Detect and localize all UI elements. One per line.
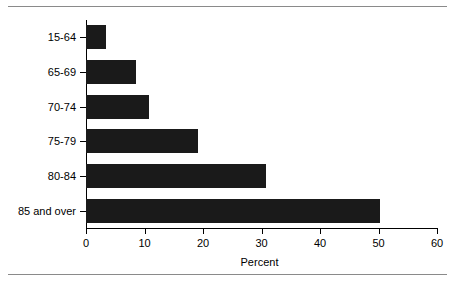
bar-row xyxy=(86,129,437,153)
y-axis-label-70-74: 70-74 xyxy=(0,101,76,113)
x-tick xyxy=(379,228,380,234)
y-axis-label-80-84: 80-84 xyxy=(0,170,76,182)
x-tick-label-50: 50 xyxy=(372,237,384,249)
top-divider-rule xyxy=(8,6,447,7)
x-tick-label-10: 10 xyxy=(138,237,150,249)
bar-15-64 xyxy=(86,25,106,49)
bar-chart-figure: 15-6465-6970-7475-7980-8485 and over 010… xyxy=(0,0,455,284)
x-axis-title-text: Percent xyxy=(241,256,279,268)
y-axis-label-65-69: 65-69 xyxy=(0,66,76,78)
y-axis-label-85-and-over: 85 and over xyxy=(0,205,76,217)
x-tick xyxy=(262,228,263,234)
y-tick xyxy=(80,72,86,73)
x-tick-label-40: 40 xyxy=(314,237,326,249)
y-tick xyxy=(80,176,86,177)
x-tick xyxy=(437,228,438,234)
bar-row xyxy=(86,25,437,49)
x-axis-title: Percent xyxy=(0,256,455,268)
y-tick xyxy=(80,141,86,142)
bar-70-74 xyxy=(86,95,149,119)
x-tick-label-60: 60 xyxy=(431,237,443,249)
x-tick-label-30: 30 xyxy=(255,237,267,249)
bar-65-69 xyxy=(86,60,136,84)
plot-area xyxy=(86,20,437,228)
y-axis-label-75-79: 75-79 xyxy=(0,135,76,147)
y-tick xyxy=(80,107,86,108)
x-tick-label-20: 20 xyxy=(197,237,209,249)
bar-row xyxy=(86,95,437,119)
bar-row xyxy=(86,164,437,188)
y-tick xyxy=(80,211,86,212)
x-tick xyxy=(86,228,87,234)
x-tick xyxy=(145,228,146,234)
bar-75-79 xyxy=(86,129,198,153)
x-tick xyxy=(320,228,321,234)
y-axis-label-15-64: 15-64 xyxy=(0,31,76,43)
bar-80-84 xyxy=(86,164,266,188)
bar-row xyxy=(86,60,437,84)
bar-85-and-over xyxy=(86,199,380,223)
y-tick xyxy=(80,37,86,38)
x-tick-label-0: 0 xyxy=(83,237,89,249)
bar-row xyxy=(86,199,437,223)
x-tick xyxy=(203,228,204,234)
bottom-divider-rule xyxy=(8,274,447,275)
